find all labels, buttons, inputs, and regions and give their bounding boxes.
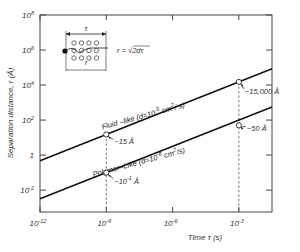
inset-molecule: [79, 41, 83, 45]
series-fluid-like: Fluid –like (d=10-5 cm2/ s)~15 Å~15,000 …: [40, 69, 279, 161]
x-tick-label: 10-6: [164, 218, 179, 229]
point-annotation: ~10-1 Å: [114, 175, 139, 186]
y-tick-label-exponent: 4: [31, 80, 34, 86]
x-tick-label-exponent: -6: [173, 218, 179, 224]
y-tick-label: 1: [30, 151, 34, 160]
x-axis-title: Time τ (s): [188, 233, 223, 242]
annotation-unit: Å: [132, 177, 139, 186]
y-tick-label: 106: [22, 45, 35, 56]
series-polymer-like: Polymer–Like (d=10-8 cm2/s)~10-1 Å~50 Å: [40, 107, 272, 199]
chart: 10-1210-910-610-3 108106104102110-2 Flui…: [0, 0, 300, 252]
point-annotation: ~15,000 Å: [245, 87, 279, 96]
inset-diagram: τrr = √2dτ: [62, 24, 150, 71]
y-axis: 108106104102110-2: [20, 10, 272, 196]
x-tick-label-exponent: -3: [239, 218, 245, 224]
data-point: [104, 132, 109, 137]
y-tick-label: 102: [22, 115, 34, 126]
inset-molecule: [79, 56, 83, 60]
x-tick-label: 10-3: [230, 218, 245, 229]
y-tick-label-exponent: 6: [31, 45, 35, 51]
x-tick-label-exponent: -12: [38, 218, 46, 224]
arrow-right-icon: [102, 32, 106, 36]
x-tick-label-exponent: -9: [106, 218, 111, 224]
inset-molecule: [94, 41, 98, 45]
arrow-head-icon: [241, 127, 244, 130]
inset-molecule: [72, 41, 76, 45]
y-tick-label-exponent: -2: [29, 185, 34, 191]
point-annotation: ~15 Å: [114, 137, 134, 146]
x-tick-label: 10-12: [30, 218, 47, 229]
x-tick-label: 10-9: [97, 218, 111, 229]
data-point: [104, 170, 109, 175]
series-label-end: /s): [175, 145, 187, 156]
inset-formula: r = √2dτ: [117, 46, 145, 55]
inset-molecule: [72, 56, 76, 60]
series-label: Fluid –like (d=10-5 cm2/ s): [100, 99, 186, 131]
series-group: Fluid –like (d=10-5 cm2/ s)~15 Å~15,000 …: [40, 69, 279, 199]
y-tick-label-exponent: 8: [31, 10, 35, 16]
inset-molecule: [87, 56, 91, 60]
y-tick-label: 104: [22, 80, 34, 91]
data-point: [236, 79, 241, 84]
point-annotation: ~50 Å: [247, 124, 267, 133]
y-tick-label: 108: [22, 10, 35, 21]
inset-tau-label: τ: [85, 24, 89, 33]
y-axis-title: Separation distance, r (Å): [6, 67, 15, 158]
inset-molecule: [87, 41, 91, 45]
y-tick-label-exponent: 2: [30, 115, 34, 121]
series-label-end: / s): [172, 100, 186, 112]
inset-molecule: [94, 48, 98, 52]
data-point: [236, 123, 241, 128]
y-tick-label: 10-2: [20, 185, 34, 196]
arrow-left-icon: [66, 32, 70, 36]
inset-molecule: [94, 56, 98, 60]
